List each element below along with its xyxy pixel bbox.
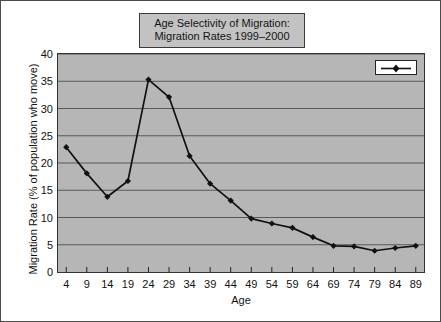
data-point-marker [372,248,378,254]
y-tick-label: 25 [23,130,53,142]
y-tick-label: 15 [23,184,53,196]
x-axis-title: Age [57,294,425,306]
data-point-marker [330,243,336,249]
y-tick-label: 20 [23,157,53,169]
chart-title-line-2: Migration Rates 1999–2000 [146,30,298,43]
y-tick-label: 10 [23,212,53,224]
y-tick-label: 35 [23,75,53,87]
chart-legend [375,60,417,75]
chart-figure: Age Selectivity of Migration: Migration … [0,0,441,322]
plot-inner [58,54,424,272]
data-point-marker [351,243,357,249]
chart-title-line-1: Age Selectivity of Migration: [146,17,298,30]
data-line [66,80,416,251]
data-point-marker [392,245,398,251]
chart-title: Age Selectivity of Migration: Migration … [139,13,305,48]
data-point-marker [289,225,295,231]
data-line-svg [58,54,424,272]
x-tick-label: 89 [399,278,433,290]
x-axis-tick-labels: 4914192429343944495459646974798489 [57,278,425,294]
plot-area [57,53,425,273]
data-point-marker [269,220,275,226]
y-tick-label: 40 [23,48,53,60]
legend-line-marker-icon [376,62,416,75]
y-tick-label: 0 [23,266,53,278]
data-point-marker [413,243,419,249]
y-tick-label: 5 [23,239,53,251]
data-point-marker [310,234,316,240]
y-axis-tick-labels: 0510152025303540 [19,53,53,273]
y-tick-label: 30 [23,103,53,115]
